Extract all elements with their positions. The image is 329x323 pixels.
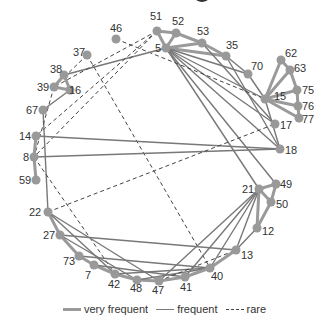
node-label-39: 39 xyxy=(37,81,49,93)
node-label-51: 51 xyxy=(150,10,162,22)
legend: very frequent frequent rare xyxy=(0,299,329,319)
node-label-22: 22 xyxy=(29,206,41,218)
node-label-48: 48 xyxy=(130,282,142,294)
edge-21-41 xyxy=(185,189,259,277)
frequent-line-swatch xyxy=(156,309,174,310)
node-label-75: 75 xyxy=(302,84,314,96)
node-label-46: 46 xyxy=(110,22,122,34)
node-39 xyxy=(50,83,59,92)
node-51 xyxy=(153,27,162,36)
node-label-73: 73 xyxy=(63,255,75,267)
rare-dashed-line-swatch xyxy=(226,309,244,310)
node-label-15: 15 xyxy=(274,90,286,102)
legend-very-frequent-label: very frequent xyxy=(84,303,148,315)
node-label-50: 50 xyxy=(276,198,288,210)
node-label-42: 42 xyxy=(108,278,120,290)
node-13 xyxy=(232,246,241,255)
edge-51-39 xyxy=(54,31,157,87)
node-73 xyxy=(75,252,84,261)
network-graph: 5152535354637706263757677151718383916671… xyxy=(0,0,329,300)
very-frequent-line-swatch xyxy=(63,308,81,311)
node-14 xyxy=(32,132,41,141)
node-12 xyxy=(253,224,262,233)
node-label-37: 37 xyxy=(73,46,85,58)
edge-22-42 xyxy=(48,212,115,274)
node-label-49: 49 xyxy=(280,178,292,190)
node-8 xyxy=(30,153,39,162)
node-50 xyxy=(267,198,276,207)
node-22 xyxy=(44,208,53,217)
node-75 xyxy=(293,86,302,95)
node-label-53: 53 xyxy=(197,25,209,37)
node-label-8: 8 xyxy=(23,151,29,163)
legend-frequent-label: frequent xyxy=(177,303,217,315)
node-label-59: 59 xyxy=(19,174,31,186)
node-5 xyxy=(162,44,171,53)
node-21 xyxy=(255,185,264,194)
edge-14-18 xyxy=(36,136,280,149)
node-15 xyxy=(261,95,270,104)
node-label-62: 62 xyxy=(285,47,297,59)
node-59 xyxy=(32,176,41,185)
node-label-18: 18 xyxy=(285,144,297,156)
node-27 xyxy=(56,231,65,240)
legend-frequent: frequent xyxy=(156,303,217,315)
edge-8-18 xyxy=(34,149,280,157)
node-label-41: 41 xyxy=(180,281,192,293)
legend-very-frequent: very frequent xyxy=(63,303,148,315)
edge-13-12 xyxy=(236,228,257,250)
edge-16-67 xyxy=(43,90,70,110)
node-53 xyxy=(198,39,207,48)
edge-67-22 xyxy=(43,110,48,212)
node-18 xyxy=(276,145,285,154)
node-label-40: 40 xyxy=(211,270,223,282)
node-label-70: 70 xyxy=(251,60,263,72)
node-label-76: 76 xyxy=(302,100,314,112)
node-label-21: 21 xyxy=(242,183,254,195)
node-label-35: 35 xyxy=(226,39,238,51)
node-label-7: 7 xyxy=(85,269,91,281)
node-46 xyxy=(112,35,121,44)
node-label-52: 52 xyxy=(172,15,184,27)
node-label-38: 38 xyxy=(50,63,62,75)
node-label-47: 47 xyxy=(152,284,164,296)
edge-47-13 xyxy=(159,250,236,281)
node-label-63: 63 xyxy=(294,62,306,74)
edge-22-17 xyxy=(48,124,275,212)
node-label-77: 77 xyxy=(302,113,314,125)
node-17 xyxy=(271,120,280,129)
legend-rare: rare xyxy=(226,303,267,315)
node-67 xyxy=(39,106,48,115)
node-label-27: 27 xyxy=(43,229,55,241)
node-35 xyxy=(222,52,231,61)
node-label-12: 12 xyxy=(262,225,274,237)
node-label-14: 14 xyxy=(19,130,31,142)
node-label-5: 5 xyxy=(155,42,161,54)
node-label-16: 16 xyxy=(69,84,81,96)
legend-rare-label: rare xyxy=(247,303,267,315)
node-label-17: 17 xyxy=(280,119,292,131)
node-52 xyxy=(172,29,181,38)
node-label-13: 13 xyxy=(241,249,253,261)
edge-5-70 xyxy=(166,48,248,74)
node-label-67: 67 xyxy=(26,104,38,116)
